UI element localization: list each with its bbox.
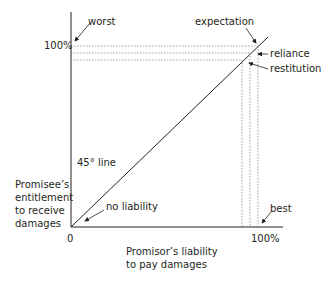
expectation-arrow (246, 28, 256, 43)
restitution-label: restitution (270, 63, 321, 75)
best-label: best (270, 203, 292, 215)
no-liability-label: no liability (106, 201, 158, 213)
origin-label: 0 (67, 233, 73, 245)
dashed-horizontals (71, 46, 258, 60)
no-liability-arrow (85, 210, 104, 221)
x-tick-100: 100% (251, 233, 280, 245)
y-tick-100: 100% (44, 40, 73, 52)
y-axis-label: Promisee’s entitlement to receive damage… (15, 178, 73, 230)
dashed-verticals (242, 46, 258, 227)
x-axis-label: Promisor’s liability to pay damages (126, 245, 218, 271)
reliance-label: reliance (270, 48, 310, 60)
line-label: 45° line (77, 157, 116, 169)
restitution-arrow (249, 63, 268, 69)
worst-label: worst (88, 16, 116, 28)
expectation-label: expectation (195, 16, 254, 28)
diagonal-45-line (71, 37, 268, 227)
